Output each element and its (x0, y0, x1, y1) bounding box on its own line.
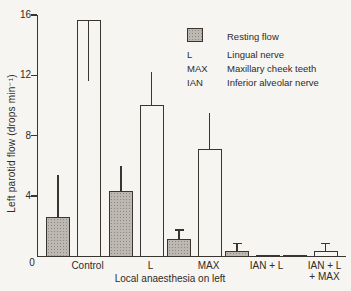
stimulated-flow-bar (256, 255, 280, 257)
y-axis-tick-label: 16 (9, 9, 31, 21)
stimulated-flow-bar (314, 251, 338, 256)
legend-key: L (187, 48, 227, 62)
legend-label: Lingual nerve (227, 48, 284, 62)
resting-flow-swatch-icon (187, 28, 203, 42)
category-label: MAX (198, 260, 220, 271)
category-label: IAN + L (250, 260, 284, 271)
error-bar-cap (321, 243, 330, 245)
stimulated-flow-bar (140, 105, 164, 256)
bar-chart-figure: Left parotid flow (drops min⁻¹) 0 Local … (0, 0, 351, 291)
error-bar-cap (175, 229, 184, 231)
y-axis-tick (31, 195, 37, 197)
legend-label: Inferior alveolar nerve (227, 76, 319, 90)
resting-flow-bar (167, 239, 191, 256)
resting-flow-bar (109, 191, 133, 256)
error-bar-inner (88, 21, 90, 81)
category-label-line: Control (71, 260, 103, 271)
resting-flow-bar (46, 217, 70, 256)
category-label-line: IAN + L (250, 260, 284, 271)
error-bar (151, 72, 153, 105)
legend: Resting flowLLingual nerveMAXMaxillary c… (187, 29, 319, 90)
legend-label: Resting flow (227, 30, 279, 44)
category-label-line: MAX (198, 260, 220, 271)
category-label: L (148, 260, 154, 271)
y-axis-tick-label: 4 (9, 190, 31, 202)
category-label: IAN + L+ MAX (308, 260, 342, 282)
error-bar (325, 244, 327, 251)
error-bar-cap (233, 243, 242, 245)
error-bar (209, 113, 211, 149)
y-axis-origin-label: 0 (26, 257, 38, 268)
error-bar (236, 244, 238, 251)
y-axis-tick (31, 135, 37, 137)
resting-flow-bar (283, 255, 307, 257)
category-label-line: IAN + L (308, 260, 342, 271)
legend-key (187, 28, 227, 46)
legend-row: IANInferior alveolar nerve (187, 76, 319, 90)
stimulated-flow-bar (198, 149, 222, 256)
y-axis-tick-label: 8 (9, 130, 31, 142)
error-bar (57, 175, 59, 217)
y-axis-tick-label: 12 (9, 69, 31, 81)
category-label: Control (71, 260, 103, 271)
legend-row: MAXMaxillary cheek teeth (187, 62, 319, 76)
y-axis-tick (31, 14, 37, 16)
error-bar (120, 166, 122, 192)
category-label-line: + MAX (308, 271, 342, 282)
error-bar (178, 230, 180, 239)
x-axis-title: Local anaesthesia on left (60, 273, 280, 284)
legend-label: Maxillary cheek teeth (227, 62, 316, 76)
legend-row: LLingual nerve (187, 48, 319, 62)
legend-key: MAX (187, 62, 227, 76)
legend-row: Resting flow (187, 29, 319, 45)
y-axis-tick (31, 75, 37, 77)
resting-flow-bar (225, 251, 249, 256)
legend-key: IAN (187, 76, 227, 90)
category-label-line: L (148, 260, 154, 271)
